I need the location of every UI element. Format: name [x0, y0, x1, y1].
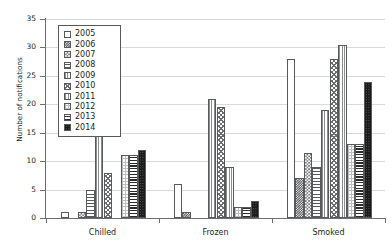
bar-frozen-2009: [208, 99, 217, 218]
solid-black-swatch-icon: [64, 124, 71, 131]
y-axis-tick-label: 35: [8, 15, 36, 23]
bar-smoked-2005: [287, 59, 296, 218]
legend-item-2007[interactable]: 2007: [64, 50, 116, 60]
bar-smoked-2013: [355, 144, 364, 218]
bar-chilled-2010: [104, 173, 113, 218]
x-axis-tick: [159, 218, 160, 223]
legend-label: 2009: [75, 72, 95, 80]
x-axis-label-frozen: Frozen: [156, 228, 276, 237]
bar-chilled-2013: [129, 155, 138, 218]
legend-label: 2008: [75, 61, 95, 69]
legend-label: 2012: [75, 103, 95, 111]
legend: 2005200620072008200920102011201220132014: [58, 25, 121, 137]
x-axis-label-chilled: Chilled: [43, 228, 163, 237]
open-white-swatch-icon: [64, 31, 71, 38]
horizontal-lines-swatch-icon: [64, 62, 71, 69]
bar-smoked-2011: [338, 45, 347, 218]
y-axis-tick-label: 25: [8, 72, 36, 80]
vertical-fine-lines-swatch-icon: [64, 72, 71, 79]
bar-frozen-2013: [242, 207, 251, 218]
y-axis-line: [45, 18, 46, 219]
legend-item-2009[interactable]: 2009: [64, 71, 116, 81]
y-axis-tick-label: 10: [8, 157, 36, 165]
diagonal-checker-swatch-icon: [64, 51, 71, 58]
legend-item-2008[interactable]: 2008: [64, 60, 116, 70]
bar-chilled-2014: [138, 150, 147, 218]
bar-chilled-2005: [61, 212, 70, 218]
light-grid-dots-swatch-icon: [64, 103, 71, 110]
bar-smoked-2012: [347, 144, 356, 218]
bar-smoked-2009: [321, 110, 330, 218]
bar-chilled-2008: [86, 190, 95, 218]
legend-item-2011[interactable]: 2011: [64, 91, 116, 101]
legend-label: 2014: [75, 124, 95, 132]
y-axis-tick-label: 20: [8, 100, 36, 108]
legend-item-2006[interactable]: 2006: [64, 39, 116, 49]
legend-item-2013[interactable]: 2013: [64, 112, 116, 122]
y-axis-tick-label: 0: [8, 214, 36, 222]
bar-chilled-2012: [121, 155, 130, 218]
x-axis-line: [45, 218, 386, 219]
crosshatch-diagonal-swatch-icon: [64, 83, 71, 90]
y-axis-tick-label: 30: [8, 43, 36, 51]
bar-smoked-2008: [312, 167, 321, 218]
y-axis-tick-label: 5: [8, 186, 36, 194]
bar-frozen-2010: [217, 107, 226, 218]
vertical-lines-grid-swatch-icon: [64, 93, 71, 100]
y-axis-tick-label: 15: [8, 129, 36, 137]
bar-chart: Number of notifications 05101520253035 C…: [0, 0, 392, 251]
x-axis-label-smoked: Smoked: [269, 228, 389, 237]
bar-frozen-2014: [251, 201, 260, 218]
legend-item-2014[interactable]: 2014: [64, 123, 116, 133]
x-axis-tick: [272, 218, 273, 223]
legend-item-2005[interactable]: 2005: [64, 29, 116, 39]
gridline: [46, 19, 385, 20]
bold-horizontal-lines-swatch-icon: [64, 114, 71, 121]
bar-frozen-2005: [174, 184, 183, 218]
bar-frozen-2006: [182, 212, 191, 218]
legend-item-2010[interactable]: 2010: [64, 81, 116, 91]
legend-label: 2010: [75, 82, 95, 90]
bar-frozen-2012: [234, 207, 243, 218]
legend-label: 2011: [75, 93, 95, 101]
bar-smoked-2006: [295, 178, 304, 218]
bar-frozen-2011: [225, 167, 234, 218]
legend-label: 2006: [75, 41, 95, 49]
legend-label: 2007: [75, 51, 95, 59]
x-axis-tick: [385, 218, 386, 223]
bar-smoked-2010: [330, 59, 339, 218]
x-axis-tick: [46, 218, 47, 223]
bar-smoked-2007: [304, 153, 313, 218]
legend-label: 2013: [75, 113, 95, 121]
bar-smoked-2014: [364, 82, 373, 218]
legend-label: 2005: [75, 30, 95, 38]
legend-item-2012[interactable]: 2012: [64, 102, 116, 112]
dark-checker-swatch-icon: [64, 41, 71, 48]
bar-chilled-2007: [78, 212, 87, 218]
